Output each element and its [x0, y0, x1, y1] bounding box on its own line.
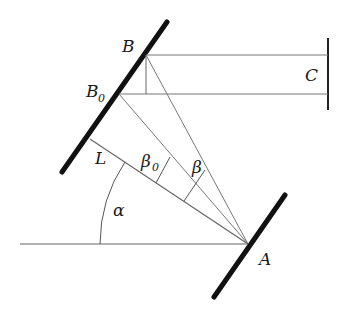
label-alpha: α: [113, 200, 125, 220]
label-b0-sub: 0: [98, 92, 105, 105]
ray-a-l: [90, 139, 248, 244]
diagram-canvas: B B 0 C L α β 0 β A: [0, 0, 348, 314]
ray-a-b: [146, 55, 248, 244]
label-a: A: [257, 249, 271, 269]
mirror-a: [214, 195, 285, 297]
ray-a-b0: [119, 94, 248, 244]
label-beta: β: [191, 157, 202, 177]
label-beta0-sub: 0: [152, 161, 159, 174]
mirror-b: [62, 22, 167, 172]
label-beta0: β: [140, 151, 151, 171]
label-l: L: [94, 148, 106, 168]
label-b: B: [121, 36, 135, 56]
label-c: C: [305, 65, 318, 85]
label-b0: B: [85, 81, 99, 101]
